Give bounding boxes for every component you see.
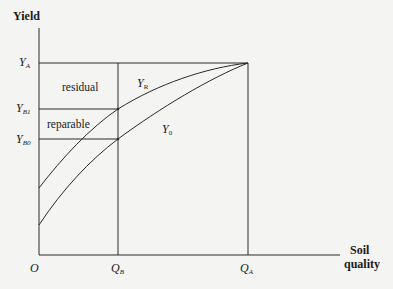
x-axis-title-line1: Soil [350,244,369,256]
origin-label: O [30,262,39,274]
yb0-label-main: Y [16,132,23,146]
x-axis-title-line2: quality [344,258,380,270]
yb0-label-sub: B0 [23,139,31,147]
yield-soil-quality-diagram: Yield Soil quality O YA YB1 YB0 QB QA re… [0,0,393,289]
ya-label: YA [19,56,30,70]
qa-label-sub: A [249,268,253,276]
y-axis-title: Yield [13,10,40,22]
residual-region-label: residual [62,82,98,94]
y0-curve-label-main: Y [162,122,169,136]
yb1-label: YB1 [16,102,30,116]
ya-label-sub: A [26,62,30,70]
diagram-lines [0,0,393,289]
qb-label: QB [111,262,124,276]
qb-label-sub: B [120,268,124,276]
y0-qb-point [117,138,120,141]
y0-curve-label-sub: 0 [169,129,173,137]
qa-label-main: Q [240,261,249,275]
yr-curve-label: YR [137,77,148,91]
qb-label-main: Q [111,261,120,275]
yr-curve-label-main: Y [137,76,144,90]
y0-curve-label: Y0 [162,123,172,137]
yr-curve-label-sub: R [144,83,149,91]
qa-label: QA [240,262,253,276]
reparable-region-label: reparable [47,119,90,131]
yb1-label-sub: B1 [23,108,31,116]
yb0-label: YB0 [16,133,30,147]
yr-qb-point [117,108,120,111]
ya-label-main: Y [19,55,26,69]
yb1-label-main: Y [16,101,23,115]
